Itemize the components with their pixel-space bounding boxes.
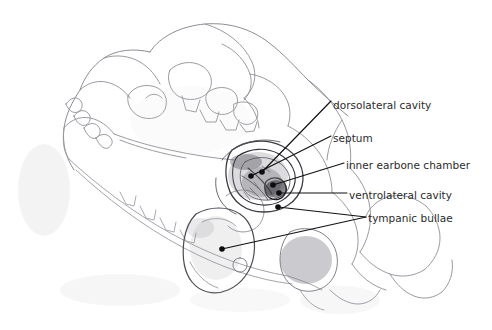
label-dorsolateral-cavity: dorsolateral cavity xyxy=(333,99,431,111)
label-ventrolateral-cavity: ventrolateral cavity xyxy=(349,189,452,201)
label-tympanic-bullae: tympanic bullae xyxy=(368,212,453,224)
label-inner-earbone-chamber: inner earbone chamber xyxy=(346,159,470,171)
anatomical-figure: dorsolateral cavity septum inner earbone… xyxy=(0,0,492,330)
label-layer: dorsolateral cavity septum inner earbone… xyxy=(0,0,492,330)
label-septum: septum xyxy=(333,132,373,144)
